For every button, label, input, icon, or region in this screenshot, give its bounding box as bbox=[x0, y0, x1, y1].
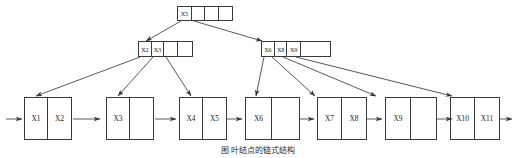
internal-left-cell-3[interactable] bbox=[178, 42, 192, 56]
internal-left-cell-2[interactable] bbox=[164, 42, 178, 56]
leaf-5-cell-0[interactable]: X7 bbox=[318, 98, 342, 139]
leaf-3-cell-1[interactable]: X5 bbox=[203, 98, 226, 139]
edge-root-to-internal-left bbox=[146, 21, 181, 41]
leaf-node-7[interactable]: X10 X11 bbox=[450, 97, 500, 140]
internal-left-cell-0[interactable]: X2 bbox=[139, 42, 152, 56]
leaf-4-cell-1[interactable] bbox=[272, 98, 299, 139]
leaf-node-1[interactable]: X1 X2 bbox=[24, 97, 72, 140]
root-cell-1[interactable] bbox=[192, 7, 206, 20]
leaf-node-3[interactable]: X4 X5 bbox=[179, 97, 227, 140]
edge-internal-right-to-leaf-7 bbox=[296, 57, 452, 96]
root-node[interactable]: X5 bbox=[177, 6, 233, 21]
leaf-node-6[interactable]: X9 bbox=[385, 97, 437, 140]
leaf-2-cell-1[interactable] bbox=[130, 98, 153, 139]
edge-root-to-internal-right bbox=[194, 21, 262, 41]
leaf-1-cell-1[interactable]: X2 bbox=[48, 98, 71, 139]
edge-internal-left-to-leaf-3 bbox=[166, 57, 191, 96]
b-plus-tree-diagram: X5 X2 X3 X6 X8 X9 X1 X2 X3 X4 X5 X6 X7 bbox=[0, 0, 515, 158]
leaf-2-cell-0[interactable]: X3 bbox=[107, 98, 130, 139]
edge-internal-right-to-leaf-5 bbox=[272, 57, 315, 96]
edge-internal-left-to-leaf-2 bbox=[118, 57, 153, 96]
figure-caption: 图 叶结点的链式结构 bbox=[0, 144, 515, 155]
root-cell-0[interactable]: X5 bbox=[178, 7, 192, 20]
internal-right-cell-2[interactable]: X9 bbox=[287, 42, 301, 56]
internal-right-cell-0[interactable]: X6 bbox=[262, 42, 275, 56]
leaf-3-cell-0[interactable]: X4 bbox=[180, 98, 203, 139]
leaf-node-2[interactable]: X3 bbox=[106, 97, 154, 140]
internal-right-cell-1[interactable]: X8 bbox=[275, 42, 288, 56]
leaf-node-5[interactable]: X7 X8 bbox=[317, 97, 367, 140]
edge-internal-right-to-leaf-6 bbox=[283, 57, 376, 96]
root-cell-3[interactable] bbox=[219, 7, 232, 20]
leaf-5-cell-1[interactable]: X8 bbox=[342, 98, 366, 139]
leaf-1-cell-0[interactable]: X1 bbox=[25, 98, 48, 139]
internal-right-cell-3[interactable] bbox=[301, 42, 330, 56]
leaf-node-4[interactable]: X6 bbox=[245, 97, 300, 140]
edge-internal-right-to-leaf-4 bbox=[256, 57, 264, 96]
edge-internal-left-to-leaf-1 bbox=[36, 57, 140, 96]
internal-node-right[interactable]: X6 X8 X9 bbox=[261, 41, 331, 57]
internal-node-left[interactable]: X2 X3 bbox=[138, 41, 193, 57]
leaf-6-cell-1[interactable] bbox=[411, 98, 436, 139]
leaf-6-cell-0[interactable]: X9 bbox=[386, 98, 411, 139]
internal-left-cell-1[interactable]: X3 bbox=[152, 42, 165, 56]
leaf-7-cell-0[interactable]: X10 bbox=[451, 98, 475, 139]
leaf-7-cell-1[interactable]: X11 bbox=[475, 98, 499, 139]
leaf-4-cell-0[interactable]: X6 bbox=[246, 98, 272, 139]
root-cell-2[interactable] bbox=[205, 7, 219, 20]
